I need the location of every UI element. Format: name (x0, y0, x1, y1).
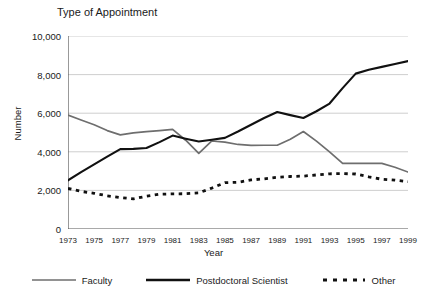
x-axis-tick-label: 1993 (321, 236, 339, 245)
x-axis-tick-label: 1981 (164, 236, 182, 245)
x-axis-tick-label: 1985 (216, 236, 234, 245)
legend-item-postdoctoral-scientist: Postdoctoral Scientist (146, 275, 287, 286)
x-axis-tick-label: 1979 (138, 236, 156, 245)
chart-legend: Faculty Postdoctoral Scientist Other (0, 270, 427, 290)
x-axis-tick-label: 1999 (399, 236, 417, 245)
x-axis-tick-label: 1983 (190, 236, 208, 245)
x-axis-tick-label: 1973 (59, 236, 77, 245)
legend-swatch-faculty (32, 275, 76, 285)
legend-swatch-postdoctoral-scientist (146, 275, 190, 285)
x-axis-tick-label: 1987 (242, 236, 260, 245)
series-line-faculty (68, 115, 408, 172)
series-line-postdoctoral-scientist (68, 61, 408, 180)
chart-title: Type of Appointment (57, 6, 157, 18)
x-axis-tick-label: 1997 (373, 236, 391, 245)
y-axis-tick-label: 4,000 (1, 146, 61, 157)
legend-label-other: Other (372, 275, 396, 286)
legend-label-faculty: Faculty (82, 275, 113, 286)
chart-container: Type of Appointment Number Year 02,0004,… (0, 0, 427, 295)
x-axis-label: Year (0, 247, 427, 258)
plot-svg (68, 36, 408, 229)
x-axis-tick-label: 1991 (294, 236, 312, 245)
x-axis-tick-label: 1995 (347, 236, 365, 245)
legend-label-postdoctoral-scientist: Postdoctoral Scientist (196, 275, 287, 286)
x-axis-tick-label: 1977 (111, 236, 129, 245)
legend-swatch-other (322, 275, 366, 285)
legend-item-faculty: Faculty (32, 275, 113, 286)
legend-item-other: Other (322, 275, 396, 286)
y-axis-tick-label: 6,000 (1, 108, 61, 119)
y-axis-tick-label: 0 (1, 224, 61, 235)
y-axis-tick-label: 8,000 (1, 69, 61, 80)
plot-area: 02,0004,0006,0008,00010,000 197319751977… (68, 36, 408, 229)
y-axis-tick-label: 10,000 (1, 31, 61, 42)
series-line-other (68, 174, 408, 199)
x-axis-tick-label: 1975 (85, 236, 103, 245)
x-axis-tick-label: 1989 (268, 236, 286, 245)
y-axis-tick-label: 2,000 (1, 185, 61, 196)
